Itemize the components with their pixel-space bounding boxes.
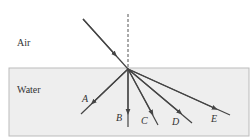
ray-label-c: C <box>141 115 148 126</box>
ray-label-e: E <box>210 113 217 124</box>
ray-label-b: B <box>116 112 122 123</box>
incident-ray <box>83 19 128 69</box>
ray-label-a: A <box>81 93 89 104</box>
ray-label-d: D <box>171 116 180 127</box>
water-region <box>9 68 249 136</box>
water-label: Water <box>17 84 41 95</box>
refraction-diagram: Air Water A B C D E <box>0 0 252 140</box>
air-label: Air <box>17 37 31 48</box>
